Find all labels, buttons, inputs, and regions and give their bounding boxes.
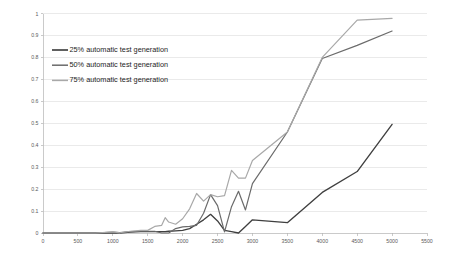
legend-label-3: 75% automatic test generation xyxy=(70,75,169,84)
x-tick-label: 2500 xyxy=(212,238,224,244)
x-tick-label: 4500 xyxy=(351,238,363,244)
x-tick-label: 5500 xyxy=(421,238,433,244)
x-tick-label: 500 xyxy=(74,238,83,244)
y-tick-label: 0.4 xyxy=(31,142,38,148)
y-tick-label: 0.6 xyxy=(31,98,38,104)
x-tick-label: 1000 xyxy=(107,238,119,244)
x-tick-label: 1500 xyxy=(142,238,154,244)
x-tick-label: 3500 xyxy=(282,238,294,244)
x-tick-label: 2000 xyxy=(177,238,189,244)
y-tick-label: 0.3 xyxy=(31,164,38,170)
y-tick-label: 1 xyxy=(36,11,39,17)
legend-label-1: 25% automatic test generation xyxy=(70,45,169,54)
x-tick-label: 5000 xyxy=(386,238,398,244)
y-tick-label: 0.2 xyxy=(31,186,38,192)
y-tick-label: 0.9 xyxy=(31,32,38,38)
legend-label-2: 50% automatic test generation xyxy=(70,60,169,69)
y-tick-label: 0 xyxy=(36,230,39,236)
y-tick-label: 0.7 xyxy=(31,76,38,82)
x-tick-label: 4000 xyxy=(316,238,328,244)
x-tick-label: 0 xyxy=(42,238,45,244)
chart-canvas: 00.10.20.30.40.50.60.70.80.9105001000150… xyxy=(0,0,449,254)
x-tick-label: 3000 xyxy=(247,238,259,244)
y-tick-label: 0.1 xyxy=(31,208,38,214)
series-line-1 xyxy=(43,124,392,233)
y-tick-label: 0.5 xyxy=(31,120,38,126)
line-chart: 00.10.20.30.40.50.60.70.80.9105001000150… xyxy=(0,0,449,254)
y-tick-label: 0.8 xyxy=(31,54,38,60)
